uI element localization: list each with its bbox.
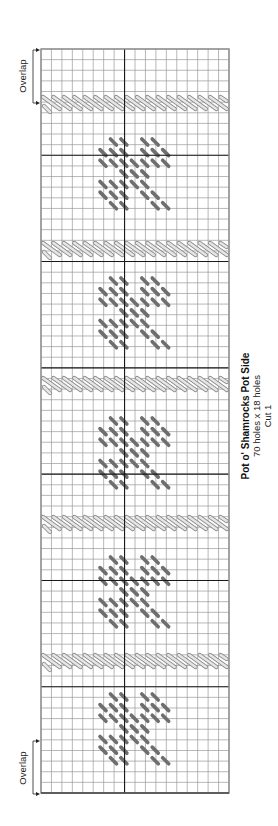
pattern-cut-count: Cut 1 [262,353,273,480]
needlepoint-chart [0,0,278,826]
overlap-brackets [33,48,40,796]
shamrock-motifs [100,139,169,764]
overlap-label-bottom: Overlap [17,751,28,784]
pattern-caption: Pot o' Shamrocks Pot Side 70 holes x 18 … [240,353,273,480]
pattern-title: Pot o' Shamrocks Pot Side [240,353,251,480]
canvas-grid [41,49,229,793]
overlap-label-top: Overlap [17,59,28,92]
pattern-dimensions: 70 holes x 18 holes [251,353,262,480]
